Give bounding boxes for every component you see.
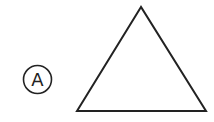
triangle-shape	[77, 7, 206, 111]
label-letter: A	[31, 69, 44, 90]
option-label-a: A	[24, 66, 52, 94]
diagram-canvas: A	[0, 0, 214, 122]
triangle-diagram: A	[0, 0, 214, 122]
